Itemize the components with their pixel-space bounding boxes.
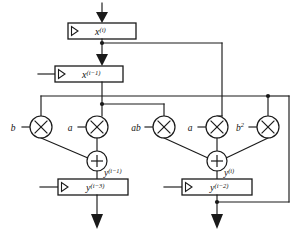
filter-block-diagram: x(i) x(i−1) — [0, 0, 304, 238]
primary-input-arrow — [96, 3, 108, 23]
register-xi1[interactable]: x(i−1) — [38, 66, 123, 82]
output-arrow-left — [91, 195, 103, 229]
diagram-canvas: x(i) x(i−1) — [0, 0, 304, 238]
register-xi[interactable]: x(i) — [68, 23, 136, 39]
multiplier-b[interactable]: b — [11, 116, 52, 138]
output-arrow-right — [211, 202, 223, 229]
wire-xi1-output-bus — [41, 82, 270, 116]
multiplier-a-right[interactable]: a — [188, 116, 228, 138]
register-yi3[interactable]: y(i−3) — [40, 179, 128, 195]
signal-label-yi1: y(i−1) — [103, 167, 122, 178]
multiplier-b-squared[interactable]: b2 — [236, 116, 279, 138]
multiplier-a-left[interactable]: a — [68, 116, 108, 138]
junction-dot-xi1-out — [100, 102, 104, 106]
junction-dot-xi-out — [100, 41, 104, 45]
multiplier-b-squared-coefficient: b2 — [236, 121, 245, 132]
multiplier-b-coefficient: b — [11, 123, 16, 133]
signal-label-yi: y(i) — [223, 167, 234, 178]
multiplier-a-left-coefficient: a — [68, 123, 73, 133]
multiplier-ab-coefficient: ab — [131, 123, 141, 133]
register-yi2[interactable]: y(i−2) — [164, 179, 252, 195]
multiplier-a-right-coefficient: a — [188, 123, 193, 133]
multiplier-ab[interactable]: ab — [131, 116, 175, 138]
